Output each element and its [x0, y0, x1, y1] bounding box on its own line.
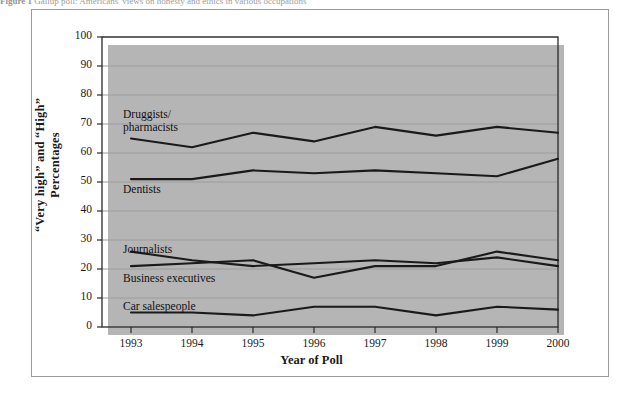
x-tick-label: 1995	[230, 337, 276, 349]
y-tick-label: 80	[64, 87, 92, 99]
x-tick-label: 2000	[535, 337, 581, 349]
x-tick-label: 1999	[474, 337, 520, 349]
x-tick-label: 1994	[169, 337, 215, 349]
figure-root: Figure 1 Gallup poll: Americans' views o…	[0, 0, 623, 405]
series-label-line-1: Druggists/	[123, 108, 178, 121]
y-tick-label: 100	[64, 29, 92, 41]
x-tick-label: 1993	[108, 337, 154, 349]
y-tick-label: 70	[64, 116, 92, 128]
x-tick-label: 1997	[352, 337, 398, 349]
y-tick-label: 40	[64, 203, 92, 215]
y-tick-label: 0	[64, 319, 92, 331]
y-tick-label: 10	[64, 290, 92, 302]
series-label-druggists-pharmacists: Druggists/pharmacists	[123, 108, 178, 133]
x-tick-label: 1998	[413, 337, 459, 349]
series-label-journalists: Journalists	[123, 243, 172, 256]
y-axis-ticks	[97, 37, 102, 327]
y-tick-label: 20	[64, 261, 92, 273]
x-tick-label: 1996	[291, 337, 337, 349]
plot-area-shadow	[108, 45, 564, 335]
y-tick-label: 90	[64, 58, 92, 70]
series-label-line-2: pharmacists	[123, 121, 178, 134]
y-tick-label: 50	[64, 174, 92, 186]
y-tick-label: 60	[64, 145, 92, 157]
series-label-dentists: Dentists	[123, 183, 161, 196]
y-tick-label: 30	[64, 232, 92, 244]
series-label-car-salespeople: Car salespeople	[123, 300, 196, 313]
series-label-business-executives: Business executives	[123, 272, 215, 285]
